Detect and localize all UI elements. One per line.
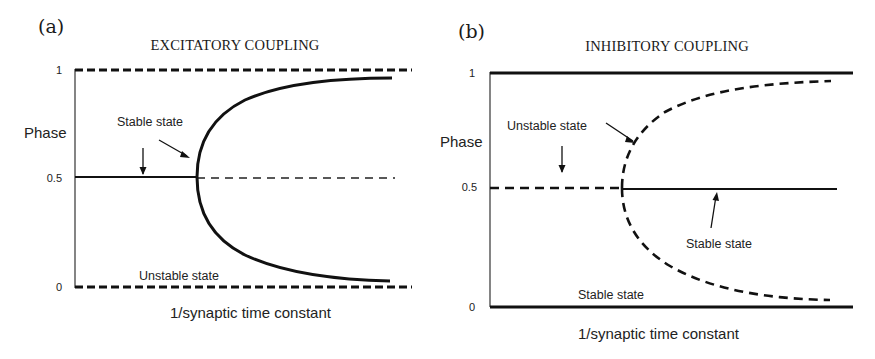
panel-b-label: (b) (458, 20, 485, 42)
panel-a-tick-0: 0 (56, 281, 62, 293)
panel-b-annotation-stable-lower: Stable state (578, 288, 644, 302)
panel-a: (a) EXCITATORY COUPLING 1 0.5 0 Phase St… (24, 15, 412, 321)
panel-b-title: INHIBITORY COUPLING (585, 38, 749, 54)
panel-a-annotation-stable: Stable state (117, 115, 183, 129)
panel-a-title: EXCITATORY COUPLING (151, 37, 320, 53)
panel-b-annotation-stable-middle: Stable state (686, 237, 752, 251)
panel-b: (b) INHIBITORY COUPLING 1 0.5 0 Phase Un… (440, 20, 853, 342)
panel-a-lower-branch (197, 177, 390, 281)
panel-b-tick-0: 0 (469, 301, 475, 313)
panel-b-x-label: 1/synaptic time constant (578, 325, 740, 342)
panel-b-tick-half: 0.5 (462, 181, 477, 193)
panel-b-tick-1: 1 (469, 67, 475, 79)
panel-a-label: (a) (38, 15, 64, 37)
panel-a-annotation-unstable: Unstable state (139, 269, 219, 283)
panel-b-upper-branch (622, 81, 831, 188)
panel-a-arrowhead-down-icon (140, 167, 147, 175)
panel-b-annotation-unstable: Unstable state (507, 119, 587, 133)
panel-a-upper-branch (197, 78, 392, 177)
panel-a-x-label: 1/synaptic time constant (170, 304, 332, 321)
panel-a-tick-half: 0.5 (47, 172, 62, 184)
panel-b-arrowhead-down-icon (559, 165, 566, 173)
panel-b-arrow-up-icon (711, 196, 716, 228)
figure: (a) EXCITATORY COUPLING 1 0.5 0 Phase St… (0, 0, 875, 359)
panel-a-y-label: Phase (24, 124, 67, 141)
panel-b-y-label: Phase (440, 133, 483, 150)
panel-a-tick-1: 1 (56, 64, 62, 76)
panel-a-arrowhead-diag-icon (180, 151, 190, 158)
panel-b-arrowhead-up-icon (713, 192, 720, 201)
